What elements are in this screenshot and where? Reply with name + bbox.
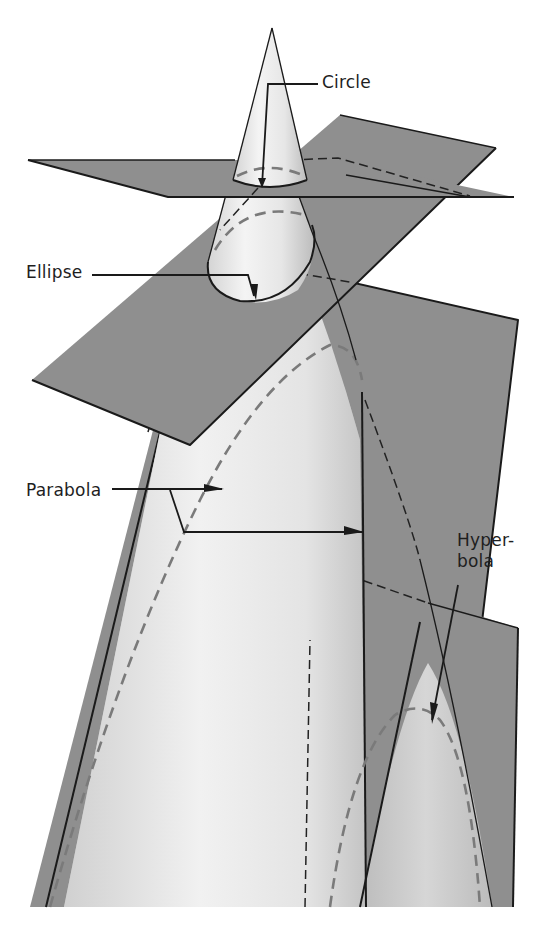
hyperbola-label-line2: bola bbox=[457, 551, 514, 572]
hyperbola-label-line1: Hyper- bbox=[457, 530, 514, 551]
hyperbola-label: Hyper- bola bbox=[457, 530, 514, 572]
conic-sections-diagram bbox=[0, 0, 542, 931]
ellipse-label: Ellipse bbox=[26, 262, 82, 282]
circle-label: Circle bbox=[322, 72, 371, 92]
parabola-label: Parabola bbox=[26, 480, 101, 500]
cone-tip bbox=[233, 28, 307, 187]
